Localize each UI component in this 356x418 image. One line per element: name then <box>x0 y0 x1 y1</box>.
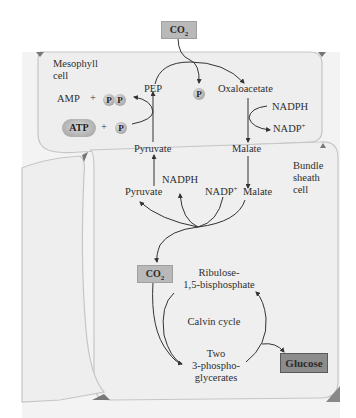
mesophyll-cell-label: Mesophyll cell <box>53 58 98 82</box>
pyrophosphate-icon: P <box>114 94 126 106</box>
co2-bundle-box: CO2 <box>137 265 173 283</box>
phosphate-icon: P <box>193 88 205 100</box>
amp-label: AMP <box>57 93 80 105</box>
mesophyll-nadph-label: NADPH <box>272 101 308 113</box>
mesophyll-malate-label: Malate <box>232 143 261 155</box>
rubp-label: Ribulose- 1,5-bisphosphate <box>174 267 264 291</box>
mesophyll-pyruvate-label: Pyruvate <box>134 143 171 155</box>
calvin-cycle-label: Calvin cycle <box>176 316 252 328</box>
glucose-output-box: Glucose <box>280 353 328 373</box>
bundle-nadp-label: NADP+ <box>205 186 238 198</box>
atp-badge: ATP <box>62 119 96 137</box>
bundle-pyruvate-label: Pyruvate <box>125 186 162 198</box>
bundle-nadph-label: NADPH <box>162 174 198 186</box>
plus-sign: + <box>90 92 96 104</box>
co2-input-box: CO2 <box>161 21 197 39</box>
bundle-sheath-cell-label: Bundle sheath cell <box>293 160 323 196</box>
oxaloacetate-label: Oxaloacetate <box>218 83 273 95</box>
pga-label: Two 3-phospho- glycerates <box>186 348 246 384</box>
plus-sign: + <box>101 121 107 133</box>
pep-label: PEP <box>144 83 162 95</box>
phosphate-icon: P <box>115 122 127 134</box>
bundle-malate-label: Malate <box>243 186 272 198</box>
mesophyll-nadp-label: NADP+ <box>273 123 306 135</box>
